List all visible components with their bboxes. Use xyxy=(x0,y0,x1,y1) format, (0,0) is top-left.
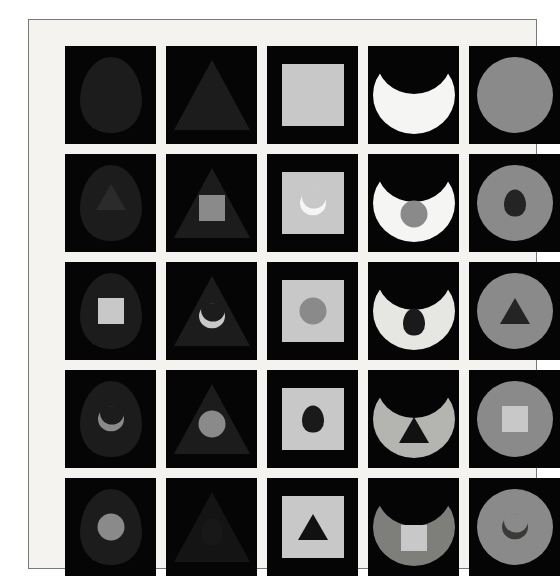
shape-tile[interactable] xyxy=(166,46,257,144)
shape-tile[interactable] xyxy=(368,478,459,576)
shape-tile[interactable] xyxy=(65,370,156,468)
shape-tile[interactable] xyxy=(166,370,257,468)
shape-tile[interactable] xyxy=(368,262,459,360)
outer-circle-shape xyxy=(477,57,553,133)
inner-crescent-shape xyxy=(300,191,326,216)
inner-square-shape xyxy=(502,406,528,432)
figure-paper xyxy=(28,19,537,569)
shape-tile[interactable] xyxy=(267,154,358,252)
shape-tile[interactable] xyxy=(65,154,156,252)
shape-tile[interactable] xyxy=(166,478,257,576)
shape-tile[interactable] xyxy=(166,154,257,252)
shape-tile[interactable] xyxy=(469,478,560,576)
shape-tile[interactable] xyxy=(267,46,358,144)
inner-triangle-shape xyxy=(96,184,126,210)
shape-tile[interactable] xyxy=(368,46,459,144)
shape-tile[interactable] xyxy=(469,262,560,360)
shape-tile[interactable] xyxy=(368,370,459,468)
outer-egg-shape xyxy=(80,57,142,133)
inner-triangle-shape xyxy=(500,298,530,324)
shape-tile[interactable] xyxy=(65,478,156,576)
inner-circle-shape xyxy=(198,411,225,438)
shape-tile[interactable] xyxy=(65,46,156,144)
inner-square-shape xyxy=(98,298,124,324)
shape-tile[interactable] xyxy=(469,154,560,252)
shape-tile[interactable] xyxy=(267,262,358,360)
shape-grid xyxy=(65,46,560,583)
inner-egg-shape xyxy=(504,190,526,217)
inner-circle-shape xyxy=(97,514,124,541)
shape-tile[interactable] xyxy=(469,46,560,144)
inner-crescent-shape xyxy=(502,515,528,540)
inner-egg-shape xyxy=(302,406,324,433)
shape-tile[interactable] xyxy=(267,478,358,576)
inner-crescent-shape xyxy=(199,304,225,329)
outer-square-shape xyxy=(282,64,344,126)
inner-square-shape xyxy=(199,195,225,221)
shape-tile[interactable] xyxy=(368,154,459,252)
inner-egg-shape xyxy=(403,309,425,336)
inner-square-shape xyxy=(401,525,427,551)
figure-root xyxy=(0,0,560,583)
outer-crescent-shape xyxy=(373,56,455,134)
inner-triangle-shape xyxy=(298,514,328,540)
shape-tile[interactable] xyxy=(65,262,156,360)
outer-triangle-shape xyxy=(174,60,250,130)
inner-circle-shape xyxy=(400,201,427,228)
inner-triangle-shape xyxy=(399,417,429,443)
inner-circle-shape xyxy=(299,298,326,325)
inner-egg-shape xyxy=(201,519,223,546)
shape-tile[interactable] xyxy=(166,262,257,360)
shape-tile[interactable] xyxy=(469,370,560,468)
inner-crescent-shape xyxy=(98,407,124,432)
shape-tile[interactable] xyxy=(267,370,358,468)
